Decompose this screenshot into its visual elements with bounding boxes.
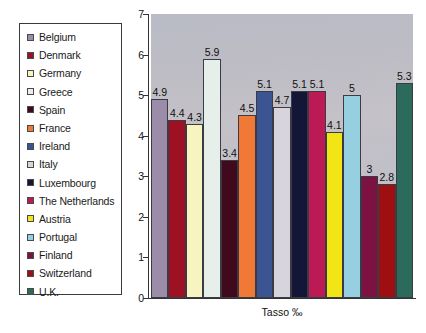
bar-value-label: 5: [349, 82, 355, 94]
bar[interactable]: 2.8: [378, 184, 395, 298]
bar[interactable]: 5.1: [256, 91, 273, 298]
bar-slot: 4.5: [238, 14, 255, 298]
legend-item[interactable]: Belgium: [27, 28, 121, 46]
bar-value-label: 5.1: [257, 78, 272, 90]
bar-value-label: 5.1: [292, 78, 307, 90]
bar-value-label: 2.8: [380, 171, 395, 183]
bar-slot: 3: [361, 14, 378, 298]
legend-item-label: Finland: [39, 246, 72, 264]
y-axis-line: [148, 14, 149, 298]
bar-slot: 4.4: [168, 14, 185, 298]
bar-value-label: 4.7: [275, 94, 290, 106]
legend-item[interactable]: Portugal: [27, 228, 121, 246]
legend-item-label: Portugal: [39, 228, 77, 246]
legend-item-label: France: [39, 119, 71, 137]
bar-slot: 4.3: [186, 14, 203, 298]
legend-item[interactable]: Italy: [27, 155, 121, 173]
bar[interactable]: 5.1: [308, 91, 325, 298]
legend-item-label: Greece: [39, 83, 73, 101]
legend-swatch-icon: [27, 197, 34, 204]
bar[interactable]: 3.4: [221, 160, 238, 298]
legend-swatch-icon: [27, 252, 34, 259]
y-axis-tick-mark: [143, 176, 149, 177]
legend-item[interactable]: U.K.: [27, 283, 121, 301]
legend-swatch-icon: [27, 88, 34, 95]
bar[interactable]: 5: [343, 95, 360, 298]
x-axis-title: Tasso ‰: [148, 306, 416, 318]
bar-slot: 5.9: [203, 14, 220, 298]
bar[interactable]: 4.5: [238, 115, 255, 298]
legend-item[interactable]: Germany: [27, 64, 121, 82]
legend-item[interactable]: Greece: [27, 83, 121, 101]
bar[interactable]: 4.9: [151, 99, 168, 298]
y-axis-tick-mark: [143, 217, 149, 218]
y-axis-tick-label: 5: [130, 89, 144, 101]
legend-item-label: Switzerland: [39, 264, 92, 282]
legend-item-label: Austria: [39, 210, 71, 228]
bar-slot: 4.9: [151, 14, 168, 298]
legend-item[interactable]: Spain: [27, 101, 121, 119]
y-axis-tick-label: 0: [130, 292, 144, 304]
legend-swatch-icon: [27, 270, 34, 277]
y-axis-tick-mark: [143, 136, 149, 137]
legend-swatch-icon: [27, 234, 34, 241]
legend-item[interactable]: Luxembourg: [27, 174, 121, 192]
legend-item[interactable]: Denmark: [27, 46, 121, 64]
legend-item[interactable]: The Netherlands: [27, 192, 121, 210]
bar-series: 4.94.44.35.93.44.55.14.75.15.14.1532.85.…: [151, 14, 413, 298]
y-axis-tick-label: 2: [130, 211, 144, 223]
legend-swatch-icon: [27, 161, 34, 168]
bar-slot: 5.1: [291, 14, 308, 298]
bar[interactable]: 4.7: [273, 107, 290, 298]
bar-value-label: 3: [366, 163, 372, 175]
bar[interactable]: 5.9: [203, 59, 220, 298]
bar[interactable]: 4.4: [168, 120, 185, 299]
bar-slot: 2.8: [378, 14, 395, 298]
legend-item[interactable]: France: [27, 119, 121, 137]
legend-swatch-icon: [27, 215, 34, 222]
legend-swatch-icon: [27, 179, 34, 186]
bar-slot: 3.4: [221, 14, 238, 298]
bar-slot: 5.1: [308, 14, 325, 298]
y-axis-tick-labels: 01234567: [130, 10, 144, 298]
bar[interactable]: 3: [361, 176, 378, 298]
bar-slot: 4.1: [326, 14, 343, 298]
y-axis-tick-mark: [143, 298, 149, 299]
bar-value-label: 4.5: [240, 102, 255, 114]
legend-swatch-icon: [27, 288, 34, 295]
legend-item[interactable]: Austria: [27, 210, 121, 228]
y-axis-tick-label: 6: [130, 49, 144, 61]
bar-value-label: 5.1: [310, 78, 325, 90]
legend-item[interactable]: Finland: [27, 246, 121, 264]
bar-slot: 5.3: [396, 14, 413, 298]
legend-item-label: Spain: [39, 101, 65, 119]
y-axis-tick-mark: [143, 95, 149, 96]
bar[interactable]: 4.1: [326, 132, 343, 298]
legend-swatch-icon: [27, 143, 34, 150]
chart-legend: BelgiumDenmarkGermanyGreeceSpainFranceIr…: [19, 23, 122, 295]
bar[interactable]: 5.1: [291, 91, 308, 298]
bar[interactable]: 5.3: [396, 83, 413, 298]
chart-figure: BelgiumDenmarkGermanyGreeceSpainFranceIr…: [0, 0, 426, 333]
y-axis-tick-mark: [143, 55, 149, 56]
plot-area: 4.94.44.35.93.44.55.14.75.15.14.1532.85.…: [151, 14, 413, 298]
legend-item-label: Denmark: [39, 46, 81, 64]
y-axis-tick-label: 3: [130, 170, 144, 182]
legend-item[interactable]: Switzerland: [27, 264, 121, 282]
legend-item-label: The Netherlands: [39, 192, 114, 210]
y-axis-tick-label: 1: [130, 251, 144, 263]
legend-swatch-icon: [27, 34, 34, 41]
legend-item[interactable]: Ireland: [27, 137, 121, 155]
bar-slot: 4.7: [273, 14, 290, 298]
y-axis-tick-mark: [143, 257, 149, 258]
legend-item-label: Ireland: [39, 137, 70, 155]
bar[interactable]: 4.3: [186, 124, 203, 298]
legend-swatch-icon: [27, 52, 34, 59]
bar-value-label: 5.9: [205, 46, 220, 58]
legend-item-label: Belgium: [39, 28, 76, 46]
x-axis-line: [148, 298, 416, 299]
y-axis-tick-mark: [143, 14, 149, 15]
bar-slot: 5.1: [256, 14, 273, 298]
bar-value-label: 4.9: [152, 86, 167, 98]
legend-item-label: Luxembourg: [39, 174, 96, 192]
